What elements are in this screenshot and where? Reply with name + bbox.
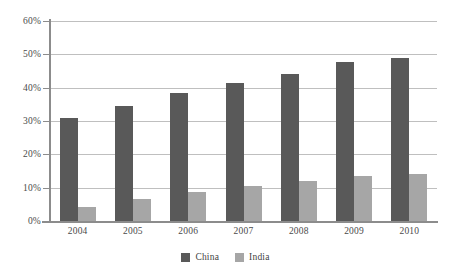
y-axis-labels: 60%50%40%30%20%10%0% — [0, 0, 41, 279]
bar-group — [115, 21, 151, 221]
bar-china-2005 — [115, 106, 133, 221]
legend-item-india[interactable]: India — [235, 252, 270, 263]
bar-india-2008 — [299, 181, 317, 221]
x-axis-tick-label: 2005 — [105, 225, 160, 237]
bar-india-2010 — [409, 174, 427, 221]
bar-group — [281, 21, 317, 221]
bar-india-2004 — [78, 207, 96, 221]
y-axis-tick-mark — [43, 121, 50, 122]
x-axis-labels: 2004200520062007200820092010 — [50, 225, 437, 241]
y-axis-tick-label: 40% — [3, 83, 41, 93]
bar-chart: 60%50%40%30%20%10%0% 2004200520062007200… — [0, 0, 451, 279]
bar-china-2010 — [391, 58, 409, 221]
bar-groups — [50, 21, 437, 221]
x-axis-tick-label: 2009 — [326, 225, 381, 237]
y-axis-tick-mark — [43, 88, 50, 89]
legend-item-china[interactable]: China — [181, 252, 219, 263]
legend-label: China — [195, 252, 219, 263]
bar-china-2006 — [170, 93, 188, 221]
y-axis-tick-mark — [43, 154, 50, 155]
x-axis-tick-label: 2010 — [382, 225, 437, 237]
bar-group — [391, 21, 427, 221]
bar-group — [226, 21, 262, 221]
legend-label: India — [249, 252, 270, 263]
bar-india-2006 — [188, 192, 206, 221]
x-axis-line — [42, 221, 438, 223]
y-axis-tick-label: 50% — [3, 49, 41, 59]
legend-swatch-icon — [181, 253, 190, 262]
bar-china-2008 — [281, 74, 299, 221]
bar-group — [60, 21, 96, 221]
y-axis-tick-mark — [43, 188, 50, 189]
bar-china-2004 — [60, 118, 78, 221]
y-axis-tick-mark — [43, 21, 50, 22]
bar-group — [336, 21, 372, 221]
y-axis-tick-label: 60% — [3, 16, 41, 26]
bar-china-2007 — [226, 83, 244, 221]
x-axis-tick-label: 2008 — [271, 225, 326, 237]
bar-india-2009 — [354, 176, 372, 221]
y-axis-tick-label: 10% — [3, 183, 41, 193]
bar-india-2007 — [244, 186, 262, 221]
chart-legend: ChinaIndia — [0, 252, 451, 263]
legend-swatch-icon — [235, 253, 244, 262]
x-axis-tick-label: 2007 — [216, 225, 271, 237]
bar-india-2005 — [133, 199, 151, 221]
y-axis-tick-label: 20% — [3, 149, 41, 159]
x-axis-tick-label: 2006 — [161, 225, 216, 237]
bar-china-2009 — [336, 62, 354, 221]
bar-group — [170, 21, 206, 221]
x-axis-tick-label: 2004 — [50, 225, 105, 237]
y-axis-tick-mark — [43, 221, 50, 222]
y-axis-tick-label: 0% — [3, 216, 41, 226]
y-axis-tick-mark — [43, 54, 50, 55]
y-axis-tick-label: 30% — [3, 116, 41, 126]
